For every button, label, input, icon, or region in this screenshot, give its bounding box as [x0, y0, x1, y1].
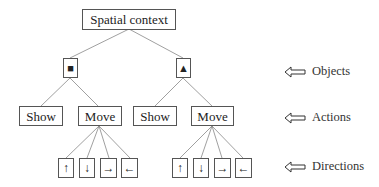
root-label: Spatial context [90, 13, 168, 26]
action-node-show-left: Show [19, 106, 63, 126]
direction-node-down-left: ↓ [79, 158, 95, 178]
legend-label: Actions [312, 110, 351, 125]
arrow-right-icon: → [103, 162, 115, 174]
direction-node-right-right: → [214, 158, 231, 178]
legend-objects: Objects [284, 64, 350, 79]
hollow-left-arrow-icon [284, 161, 306, 173]
arrow-down-icon: ↓ [198, 162, 204, 174]
action-node-move-left: Move [78, 106, 122, 126]
action-label: Show [26, 110, 56, 123]
direction-node-left-left: ← [121, 158, 138, 178]
object-node-triangle: ▲ [176, 58, 191, 78]
direction-node-right-left: → [100, 158, 117, 178]
direction-node-down-right: ↓ [193, 158, 209, 178]
triangle-icon: ▲ [178, 63, 189, 74]
direction-node-up-left: ↑ [58, 158, 74, 178]
action-label: Move [197, 110, 227, 123]
object-node-square: ■ [63, 58, 78, 78]
arrow-left-icon: ← [124, 162, 136, 174]
arrow-up-icon: ↑ [177, 162, 183, 174]
direction-node-left-right: ← [235, 158, 252, 178]
legend-actions: Actions [284, 110, 351, 125]
legend-label: Objects [312, 64, 350, 79]
arrow-up-icon: ↑ [63, 162, 69, 174]
square-icon: ■ [67, 63, 74, 74]
root-node-spatial-context: Spatial context [82, 9, 176, 30]
action-label: Show [140, 110, 170, 123]
direction-node-up-right: ↑ [172, 158, 188, 178]
legend-label: Directions [312, 159, 364, 174]
action-node-move-right: Move [191, 106, 234, 126]
arrow-down-icon: ↓ [84, 162, 90, 174]
hollow-left-arrow-icon [284, 66, 306, 78]
legend-directions: Directions [284, 159, 364, 174]
action-node-show-right: Show [133, 106, 177, 126]
arrow-right-icon: → [217, 162, 229, 174]
hollow-left-arrow-icon [284, 112, 306, 124]
action-label: Move [85, 110, 115, 123]
arrow-left-icon: ← [238, 162, 250, 174]
